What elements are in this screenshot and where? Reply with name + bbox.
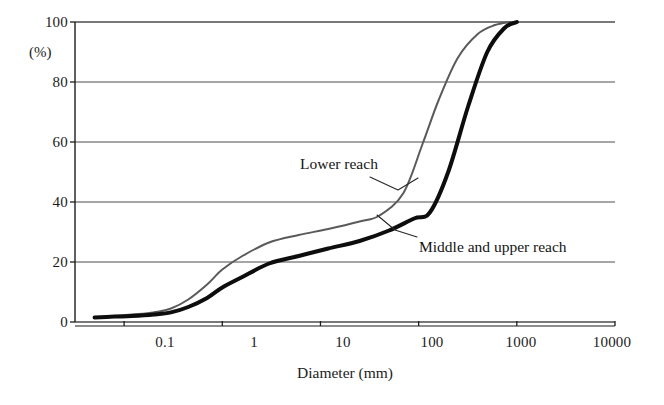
y-tick-label-100: 100 (28, 14, 68, 31)
chart-figure: 100 80 60 40 20 0 (%) 0.1 1 10 100 1000 … (0, 0, 664, 405)
x-tick-label-10: 10 (335, 334, 350, 351)
axis-line-group (75, 22, 615, 326)
y-axis-unit-label: (%) (29, 44, 52, 61)
series-label-lower-reach: Lower reach (300, 155, 378, 173)
y-tick-label-60: 60 (28, 134, 68, 151)
chart-plot-area (0, 0, 664, 405)
y-tick-label-40: 40 (28, 194, 68, 211)
y-tick-label-20: 20 (28, 254, 68, 271)
series-label-middle-and-upper-reach: Middle and upper reach (419, 238, 567, 256)
y-tick-mark-group (70, 22, 75, 322)
x-tick-label-0-1: 0.1 (155, 334, 174, 351)
x-tick-label-100: 100 (420, 334, 443, 351)
y-tick-label-80: 80 (28, 74, 68, 91)
x-tick-label-10000: 10000 (593, 334, 632, 351)
x-tick-label-1000: 1000 (506, 334, 537, 351)
x-axis-title: Diameter (mm) (297, 364, 393, 382)
y-tick-label-0: 0 (28, 314, 68, 331)
x-tick-label-1: 1 (250, 334, 258, 351)
